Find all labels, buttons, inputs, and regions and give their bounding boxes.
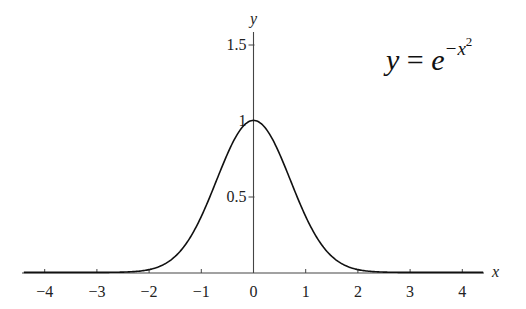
y-axis-label: y	[248, 10, 258, 28]
x-tick-label: 4	[458, 283, 466, 300]
formula-base: e	[431, 43, 444, 76]
x-tick-label: 3	[406, 283, 414, 300]
y-tick-label: 0.5	[227, 188, 247, 205]
x-tick-label: 0	[250, 283, 258, 300]
formula-exponent-text: −x	[445, 38, 466, 59]
x-tick-label: 1	[302, 283, 310, 300]
y-tick-label: 1.5	[227, 36, 247, 53]
x-tick-label: −3	[88, 283, 105, 300]
x-tick-label: −2	[141, 283, 158, 300]
formula-equals: =	[399, 43, 431, 76]
formula-annotation: y = e−x2	[386, 40, 472, 77]
formula-exponent-power: 2	[466, 34, 473, 49]
formula-exponent: −x2	[445, 38, 473, 59]
formula-lhs: y	[386, 43, 399, 76]
x-tick-label: −4	[36, 283, 53, 300]
x-tick-label: 2	[354, 283, 362, 300]
x-tick-label: −1	[193, 283, 210, 300]
x-axis-label: x	[491, 263, 499, 280]
